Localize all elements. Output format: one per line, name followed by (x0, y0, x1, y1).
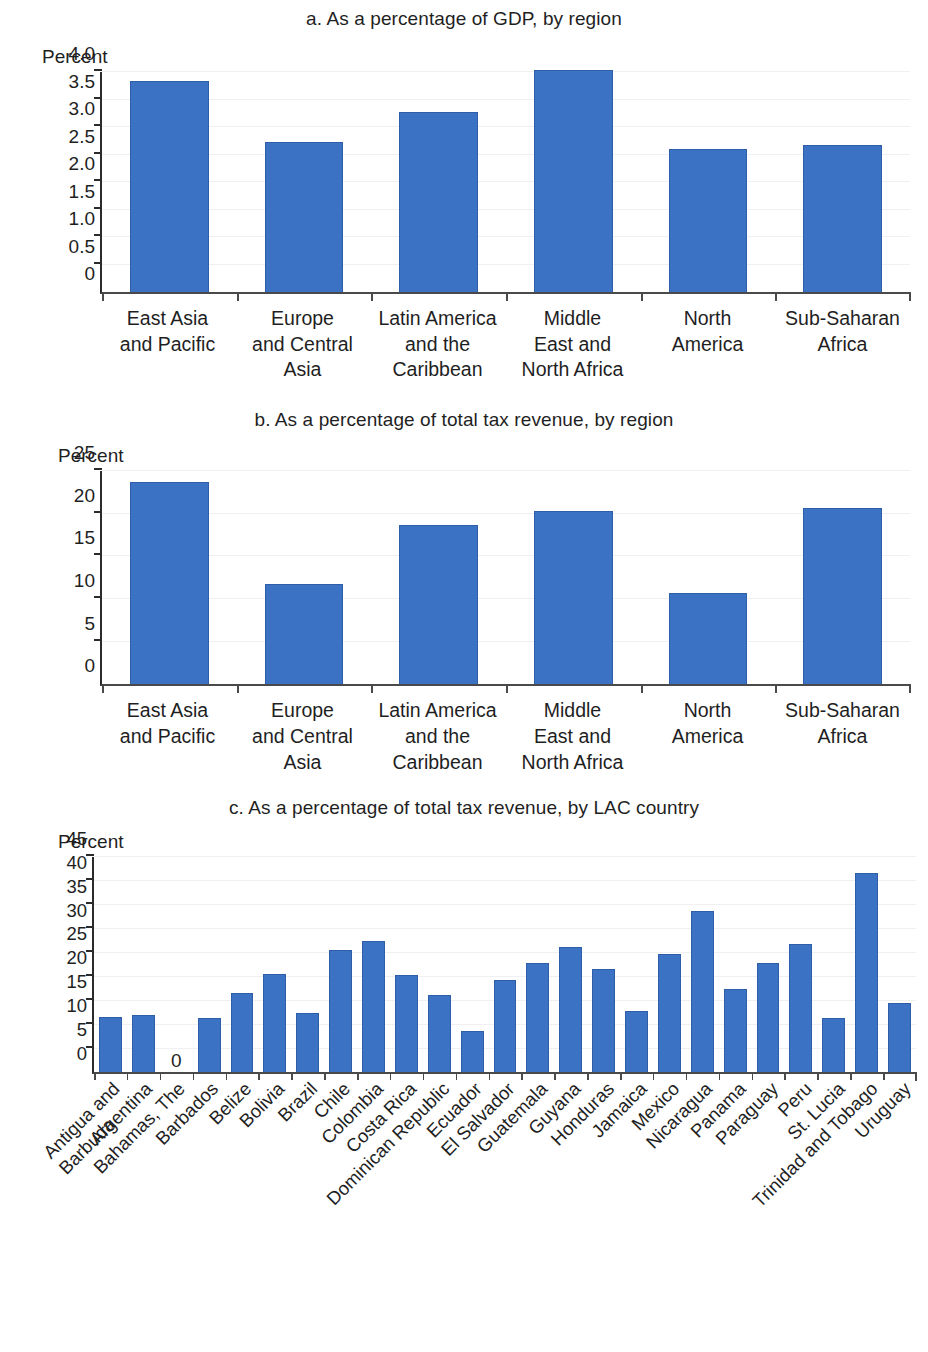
bar[interactable] (789, 944, 812, 1073)
bar[interactable] (559, 947, 582, 1073)
x-axis-tick (102, 684, 237, 693)
chart-panel-a: a. As a percentage of GDP, by region Per… (0, 0, 928, 383)
bar-slot[interactable] (817, 857, 850, 1072)
bar[interactable] (265, 142, 344, 292)
bar-slot[interactable] (554, 857, 587, 1072)
bar-slot[interactable] (506, 72, 641, 292)
bar-slot[interactable] (102, 72, 237, 292)
bar-slot[interactable] (390, 857, 423, 1072)
bar-slot[interactable] (620, 857, 653, 1072)
bar[interactable] (669, 593, 748, 684)
y-axis-tick-mark (86, 1022, 94, 1024)
bar-slot[interactable] (686, 857, 719, 1072)
bar-slot[interactable] (102, 471, 237, 684)
bar-slot[interactable] (653, 857, 686, 1072)
x-axis-tick (237, 684, 372, 693)
bar-slot[interactable] (127, 857, 160, 1072)
bar[interactable] (428, 995, 451, 1072)
x-axis-tick (102, 292, 237, 301)
bar[interactable] (691, 911, 714, 1072)
y-axis-tick-mark (94, 553, 102, 555)
bar[interactable] (625, 1011, 648, 1073)
bar-slot[interactable] (193, 857, 226, 1072)
bar-slot[interactable] (883, 857, 916, 1072)
y-axis-tick-mark (86, 950, 94, 952)
bar-slot[interactable] (237, 72, 372, 292)
panel-a-x-ticks (102, 292, 910, 301)
bar-slot[interactable] (94, 857, 127, 1072)
bar[interactable] (669, 149, 748, 292)
bar[interactable] (399, 112, 478, 292)
y-axis-tick-label: 25 (74, 443, 95, 462)
bar-slot[interactable] (357, 857, 390, 1072)
panel-b-bars (102, 471, 910, 684)
bar-slot[interactable] (371, 72, 506, 292)
bar-slot[interactable] (752, 857, 785, 1072)
bar[interactable] (265, 584, 344, 685)
bar[interactable] (132, 1015, 155, 1072)
bar[interactable] (399, 525, 478, 684)
bar[interactable] (803, 508, 882, 684)
bar-slot[interactable] (456, 857, 489, 1072)
bar-slot[interactable] (291, 857, 324, 1072)
bar-slot[interactable]: 0 (160, 857, 193, 1072)
bar[interactable] (803, 145, 882, 292)
bar[interactable] (263, 974, 286, 1072)
y-axis-tick-label: 15 (66, 973, 87, 992)
bar-slot[interactable] (324, 857, 357, 1072)
bar-slot[interactable] (850, 857, 883, 1072)
bar[interactable] (526, 963, 549, 1073)
x-axis-category-label: East Asiaand Pacific (100, 698, 235, 775)
bar[interactable] (534, 511, 613, 684)
y-axis-tick-mark (94, 468, 102, 470)
bar[interactable] (329, 950, 352, 1072)
y-axis-tick-mark (86, 998, 94, 1000)
bar-slot[interactable] (587, 857, 620, 1072)
bar[interactable] (592, 969, 615, 1072)
bar-slot[interactable] (506, 471, 641, 684)
panel-a-x-labels: East Asiaand PacificEuropeand CentralAsi… (100, 306, 910, 383)
bar[interactable] (757, 963, 780, 1072)
y-axis-tick-mark (86, 974, 94, 976)
bar-slot[interactable] (258, 857, 291, 1072)
bar-slot[interactable] (423, 857, 456, 1072)
y-axis-tick-label: 3.0 (69, 99, 95, 118)
bar[interactable] (724, 989, 747, 1073)
bar-slot[interactable] (237, 471, 372, 684)
bar[interactable] (130, 482, 209, 684)
bar-slot[interactable] (641, 72, 776, 292)
bar[interactable] (822, 1018, 845, 1072)
bar-slot[interactable] (775, 72, 910, 292)
bar[interactable] (130, 81, 209, 292)
bar[interactable] (855, 873, 878, 1073)
bar-slot[interactable] (641, 471, 776, 684)
bar[interactable] (494, 980, 517, 1073)
chart-panel-c: c. As a percentage of total tax revenue,… (0, 775, 928, 1244)
bar-slot[interactable] (784, 857, 817, 1072)
panel-b-unit-label: Percent (58, 445, 928, 467)
x-axis-category-label: NorthAmerica (640, 698, 775, 775)
bar[interactable] (461, 1031, 484, 1073)
bar-slot[interactable] (371, 471, 506, 684)
x-axis-tick (775, 684, 910, 693)
bar[interactable] (231, 993, 254, 1073)
x-axis-tick (506, 292, 641, 301)
bar[interactable] (395, 975, 418, 1072)
bar[interactable] (99, 1017, 122, 1073)
bar[interactable] (658, 954, 681, 1072)
bar[interactable] (534, 70, 613, 292)
bar-slot[interactable] (719, 857, 752, 1072)
bar-slot[interactable] (226, 857, 259, 1072)
bar-slot[interactable] (521, 857, 554, 1072)
bar[interactable] (296, 1013, 319, 1073)
bar[interactable] (362, 941, 385, 1072)
bar[interactable] (198, 1018, 221, 1072)
y-axis-tick-label: 20 (66, 949, 87, 968)
y-axis-tick-mark (94, 596, 102, 598)
y-axis-tick-mark (94, 97, 102, 99)
panel-a-bars (102, 72, 910, 292)
bar-slot[interactable] (775, 471, 910, 684)
bar[interactable] (888, 1003, 911, 1072)
bar-slot[interactable] (489, 857, 522, 1072)
y-axis-tick-label: 5 (84, 613, 95, 632)
